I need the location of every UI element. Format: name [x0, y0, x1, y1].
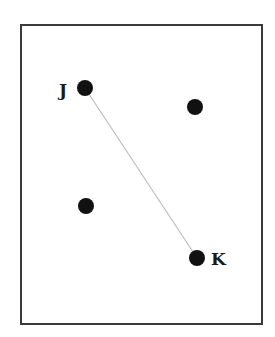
diagram-canvas: J K — [0, 0, 275, 337]
point-upper-right — [187, 99, 203, 115]
segment-j-k — [85, 88, 197, 258]
point-j — [77, 80, 93, 96]
point-k — [189, 250, 205, 266]
label-k: K — [211, 249, 227, 269]
label-j: J — [57, 80, 67, 100]
point-left — [78, 198, 94, 214]
